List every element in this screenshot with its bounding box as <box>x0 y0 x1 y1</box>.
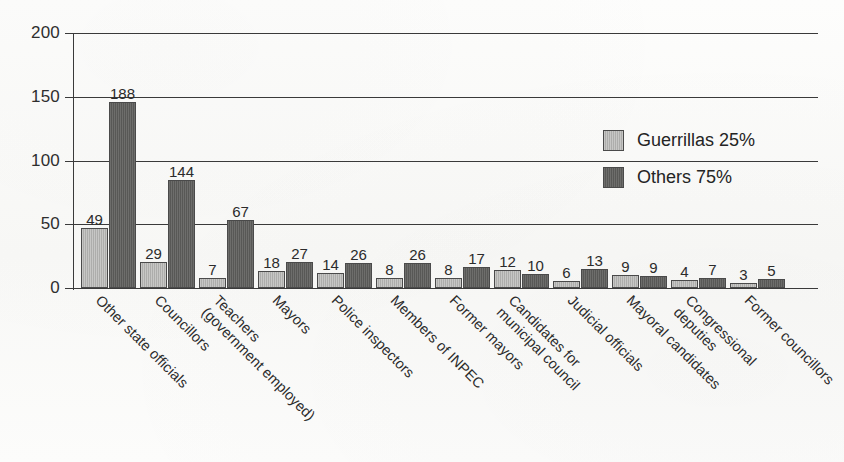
bar-value-label: 67 <box>232 204 249 219</box>
bar-value-label: 188 <box>110 86 135 101</box>
bar: 26 <box>404 263 431 288</box>
x-axis-label-line: Mayors <box>270 292 315 337</box>
bar-group: 613 <box>553 33 608 288</box>
x-axis-category-labels: Other state officialsCouncillorsTeachers… <box>73 292 818 462</box>
bar-group: 1827 <box>258 33 313 288</box>
y-tick-label-0: 0 <box>0 278 60 298</box>
bar: 27 <box>286 262 313 288</box>
bar: 144 <box>168 180 195 288</box>
bar: 9 <box>612 275 639 288</box>
bar: 7 <box>199 278 226 288</box>
bar: 29 <box>140 262 167 288</box>
bar: 3 <box>730 283 757 288</box>
bar: 188 <box>109 102 136 288</box>
legend-label-guerrillas: Guerrillas 25% <box>637 130 755 151</box>
bar: 26 <box>345 263 372 288</box>
legend-item-others: Others 75% <box>603 159 818 196</box>
bar-value-label: 8 <box>385 262 393 277</box>
bar-value-label: 7 <box>708 262 716 277</box>
bar: 13 <box>581 269 608 288</box>
gridline-0 <box>73 288 818 289</box>
x-axis-label: Teachers(government employed) <box>198 292 330 424</box>
bar: 5 <box>758 279 785 288</box>
chart-page: 050100150200 491882914476718271426826817… <box>0 0 844 462</box>
y-tick-label-200: 200 <box>0 23 60 43</box>
bar: 49 <box>81 228 108 288</box>
bar-value-label: 13 <box>586 253 603 268</box>
y-axis-tick-labels: 050100150200 <box>0 0 60 300</box>
bar-value-label: 14 <box>322 257 339 272</box>
bar: 18 <box>258 271 285 288</box>
bar-group: 817 <box>435 33 490 288</box>
bar-value-label: 26 <box>409 247 426 262</box>
bar-value-label: 10 <box>527 258 544 273</box>
bar-value-label: 9 <box>621 259 629 274</box>
bar-group: 767 <box>199 33 254 288</box>
bar-value-label: 17 <box>468 251 485 266</box>
bar-group: 49188 <box>81 33 136 288</box>
legend-label-others: Others 75% <box>637 167 732 188</box>
bar-group: 826 <box>376 33 431 288</box>
bar: 6 <box>553 281 580 288</box>
bar-value-label: 5 <box>767 263 775 278</box>
bar-group: 1210 <box>494 33 549 288</box>
bar: 4 <box>671 280 698 288</box>
bar-value-label: 9 <box>649 260 657 275</box>
bar-value-label: 27 <box>291 246 308 261</box>
bar-group: 29144 <box>140 33 195 288</box>
legend-swatch-icon-others <box>603 167 624 188</box>
bar-group: 1426 <box>317 33 372 288</box>
legend-item-guerrillas: Guerrillas 25% <box>603 122 818 159</box>
bar-value-label: 3 <box>739 267 747 282</box>
bar: 8 <box>376 278 403 288</box>
chart-legend: Guerrillas 25% Others 75% <box>603 122 818 196</box>
bar: 9 <box>640 276 667 288</box>
bar: 12 <box>494 270 521 288</box>
legend-swatch-icon-guerrillas <box>603 130 624 151</box>
bar-value-label: 4 <box>680 264 688 279</box>
x-axis-label-line: Former councillors <box>742 292 838 388</box>
bar-value-label: 7 <box>208 262 216 277</box>
bar: 17 <box>463 267 490 288</box>
bar: 8 <box>435 278 462 288</box>
bar: 67 <box>227 220 254 288</box>
bar-value-label: 18 <box>263 255 280 270</box>
bar-value-label: 26 <box>350 247 367 262</box>
bar-value-label: 144 <box>169 164 194 179</box>
y-tick-label-150: 150 <box>0 87 60 107</box>
bar: 10 <box>522 274 549 288</box>
x-axis-label: Mayors <box>269 292 315 338</box>
x-axis-label: Former councillors <box>741 292 837 388</box>
y-tick-label-50: 50 <box>0 214 60 234</box>
bar: 7 <box>699 278 726 288</box>
bar-value-label: 49 <box>86 212 103 227</box>
bar-value-label: 6 <box>562 265 570 280</box>
bar-value-label: 8 <box>444 262 452 277</box>
y-tick-label-100: 100 <box>0 151 60 171</box>
bar: 14 <box>317 273 344 288</box>
bar-value-label: 29 <box>145 246 162 261</box>
bar-value-label: 12 <box>499 254 516 269</box>
